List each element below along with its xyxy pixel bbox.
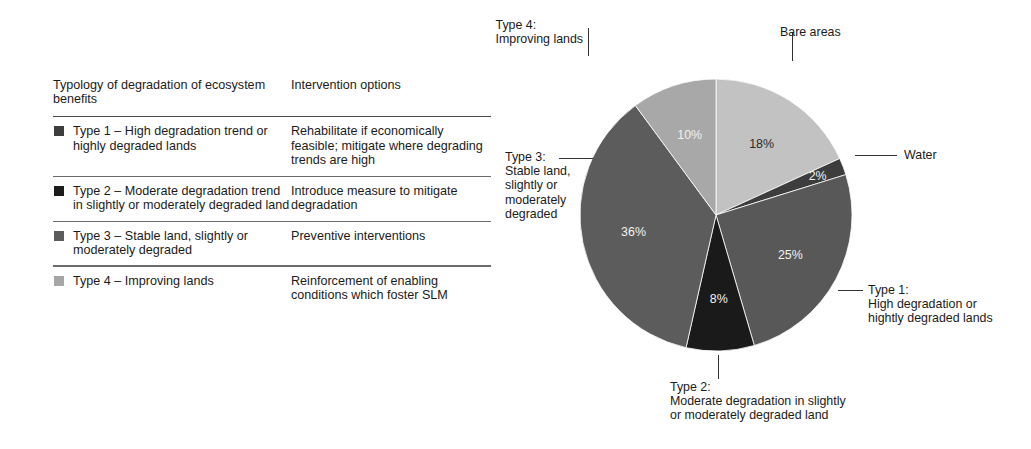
row-typology-text: Type 4 – Improving lands — [73, 274, 214, 288]
legend-swatch-type-2 — [54, 186, 64, 196]
column-header-typology: Typology of degradation of ecosystem ben… — [53, 78, 291, 116]
callout-type-3: Type 3: Stable land, slightly or moderat… — [505, 150, 570, 221]
row-typology-text: Type 1 – High degradation trend or highl… — [73, 124, 268, 152]
row-intervention-cell: Preventive interventions — [291, 222, 491, 266]
leader-line-type1 — [838, 290, 863, 291]
callout-water: Water — [904, 148, 937, 162]
table-row: Type 1 – High degradation trend or highl… — [53, 117, 491, 175]
row-intervention-cell: Reinforcement of enabling conditions whi… — [291, 267, 491, 311]
row-intervention-cell: Introduce measure to mitigate degradatio… — [291, 177, 491, 221]
column-header-intervention: Intervention options — [291, 78, 491, 116]
row-intervention-cell: Rehabilitate if economically feasible; m… — [291, 117, 491, 175]
figure-root: Typology of degradation of ecosystem ben… — [0, 0, 1031, 449]
callout-type-1: Type 1: High degradation or hightly degr… — [868, 283, 993, 326]
pie-label-type-3: 36% — [621, 225, 646, 239]
legend-swatch-type-1 — [54, 126, 64, 136]
legend-swatch-type-4 — [54, 276, 64, 286]
table-header-row: Typology of degradation of ecosystem ben… — [53, 78, 491, 116]
pie-label-type-2: 8% — [710, 292, 728, 306]
row-typology-text: Type 3 – Stable land, slightly or modera… — [73, 229, 248, 257]
row-typology-cell: Type 4 – Improving lands — [53, 267, 291, 311]
pie-label-water: 2% — [809, 169, 827, 183]
callout-type-4: Type 4: Improving lands — [496, 18, 583, 46]
typology-table-panel: Typology of degradation of ecosystem ben… — [53, 78, 491, 310]
pie-label-bare-areas: 18% — [749, 137, 774, 151]
callout-bare-areas: Bare areas — [780, 25, 841, 39]
row-typology-cell: Type 2 – Moderate degradation trend in s… — [53, 177, 291, 221]
pie-chart-panel: 18%2%25%8%36%10% Type 4: Improving lands… — [500, 0, 1031, 449]
row-typology-cell: Type 1 – High degradation trend or highl… — [53, 117, 291, 175]
pie-slices-group — [580, 79, 852, 351]
callout-type-2: Type 2: Moderate degradation in slightly… — [670, 380, 846, 423]
table-row: Type 2 – Moderate degradation trend in s… — [53, 177, 491, 221]
legend-swatch-type-3 — [54, 231, 64, 241]
typology-table: Typology of degradation of ecosystem ben… — [53, 78, 491, 310]
leader-line-water — [855, 155, 897, 156]
table-row: Type 4 – Improving lands Reinforcement o… — [53, 267, 491, 311]
table-row: Type 3 – Stable land, slightly or modera… — [53, 222, 491, 266]
row-typology-cell: Type 3 – Stable land, slightly or modera… — [53, 222, 291, 266]
pie-label-type-1: 25% — [778, 248, 803, 262]
pie-label-type-4: 10% — [677, 128, 702, 142]
leader-line-type2 — [718, 355, 719, 379]
leader-line-type4 — [588, 28, 589, 56]
row-typology-text: Type 2 – Moderate degradation trend in s… — [73, 184, 289, 212]
